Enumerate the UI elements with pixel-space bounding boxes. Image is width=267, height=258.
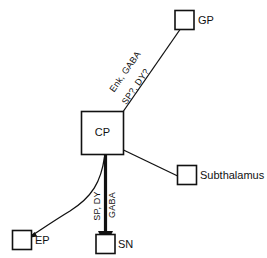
node-sn-box[interactable] [96, 235, 115, 254]
node-subthalamus-box[interactable] [178, 166, 197, 185]
node-sn[interactable]: SN [96, 235, 133, 254]
node-ep[interactable]: EP [13, 231, 50, 250]
node-subthalamus-label: Subthalamus [200, 169, 265, 181]
node-subthalamus[interactable]: Subthalamus [178, 166, 265, 185]
edge-label-sp-dy: SP, DY [92, 191, 102, 221]
node-gp-label: GP [198, 14, 214, 26]
node-gp[interactable]: GP [175, 11, 214, 30]
node-sn-label: SN [118, 238, 133, 250]
node-cp[interactable]: CP [82, 112, 124, 155]
node-cp-label: CP [95, 126, 110, 138]
node-gp-box[interactable] [175, 11, 194, 30]
edge-label-gaba: GABA [107, 192, 117, 218]
diagram-canvas: GP CP Subthalamus EP SN Enk, GABA SP?, D… [0, 0, 267, 258]
diagram-svg: GP CP Subthalamus EP SN Enk, GABA SP?, D… [0, 0, 267, 258]
node-ep-label: EP [35, 234, 50, 246]
edge-cp-to-gp-labels: Enk, GABA SP?, DY? [107, 49, 151, 106]
node-ep-box[interactable] [13, 231, 32, 250]
edge-cp-to-subthalamus-line [124, 150, 187, 180]
